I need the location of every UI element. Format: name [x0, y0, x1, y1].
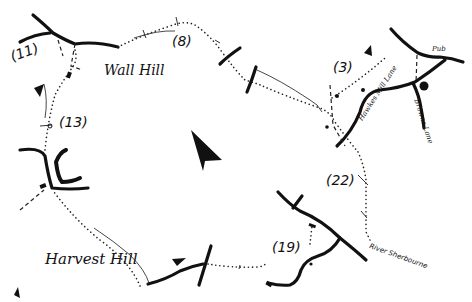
hedge [44, 84, 46, 118]
track-pub [416, 55, 417, 83]
direction-arrow-icon [364, 45, 372, 56]
road-harvest [148, 246, 211, 285]
waypoint-3: (3) [333, 59, 353, 75]
point-marker-icon [361, 88, 365, 92]
waypoint-8: (8) [172, 33, 192, 49]
place-label-wall-hill: Wall Hill [104, 62, 165, 78]
pub-label: Pub [432, 45, 446, 53]
pub-marker-icon [420, 82, 429, 91]
waypoint-22: (22) [326, 172, 355, 188]
hedge [257, 70, 322, 112]
building-icon [66, 71, 72, 78]
road-crossing-1 [220, 48, 240, 64]
place-label-harvest-hill: Harvest Hill [45, 250, 138, 268]
point-marker-icon [335, 94, 339, 98]
road-crossing-2 [247, 67, 256, 92]
point-marker-icon [325, 125, 329, 129]
direction-arrow-icon [14, 287, 20, 298]
north-arrow-icon [191, 130, 222, 171]
direction-arrow-icon [34, 84, 44, 97]
route-path-spur [310, 58, 385, 244]
route-path-bottom [208, 263, 268, 267]
waypoint-19: (19) [272, 239, 301, 255]
waypoint-13: (13) [59, 114, 88, 130]
road-left [20, 149, 88, 189]
road-pub [391, 29, 463, 62]
route-path [118, 23, 370, 240]
direction-arrow-icon [172, 258, 186, 266]
